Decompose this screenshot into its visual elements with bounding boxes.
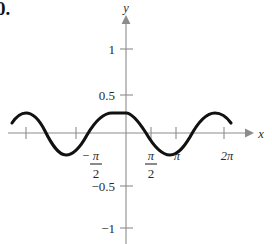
problem-number-label: 0. (0, 0, 10, 20)
x-axis-arrow-icon (245, 129, 254, 138)
y-axis-label: y (121, 1, 129, 15)
x-label-neg-pi-over-2-numerator: π (93, 149, 100, 163)
y-label-neg-half: −0.5 (91, 179, 115, 194)
y-axis-arrow-icon (122, 15, 131, 24)
x-label-neg-pi-over-2-minus: − (82, 149, 90, 163)
graph-figure: 0. − π 2 π (0, 0, 272, 244)
x-label-two-pi: 2π (221, 149, 234, 163)
x-label-pi-over-2-denominator: 2 (148, 166, 155, 181)
y-label-neg-one: −1 (101, 221, 115, 236)
x-label-neg-pi-over-2: − π 2 (82, 149, 102, 181)
x-label-pi-over-2: π 2 (145, 149, 157, 181)
x-label-pi-over-2-numerator: π (148, 149, 155, 163)
x-axis-label: x (257, 127, 264, 141)
y-label-one: 1 (109, 42, 116, 57)
cosine-curve (12, 113, 231, 155)
coordinate-plane: − π 2 π 2 π 2π 1 0.5 −0.5 −1 x y (0, 0, 272, 244)
y-label-half: 0.5 (99, 88, 115, 103)
x-label-pi: π (174, 149, 181, 163)
